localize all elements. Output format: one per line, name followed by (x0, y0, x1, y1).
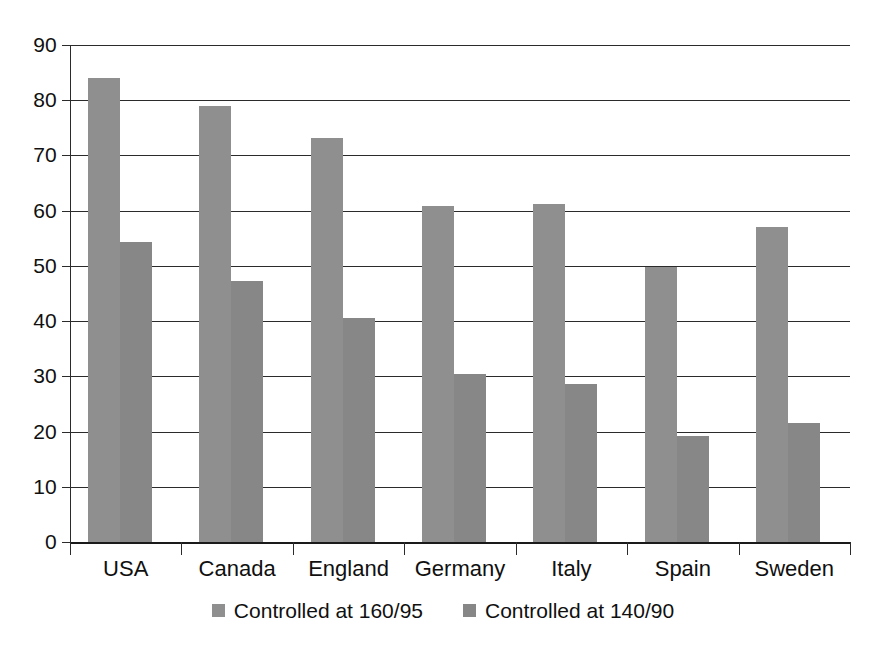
y-axis-tick-label: 70 (33, 144, 57, 165)
x-axis-tick-label: Canada (181, 556, 292, 582)
bar-group (199, 45, 263, 542)
bar[interactable] (120, 242, 152, 542)
y-axis-tick-label: 80 (33, 89, 57, 110)
bar-group (88, 45, 152, 542)
bar-group (645, 45, 709, 542)
x-axis-tick (850, 542, 851, 555)
y-axis-tick-label: 40 (33, 310, 57, 331)
bar-chart: 0102030405060708090 USACanadaEnglandGerm… (0, 0, 886, 647)
bar[interactable] (533, 204, 565, 542)
x-axis-line (70, 542, 850, 544)
bars-layer (70, 45, 850, 542)
bar-group (533, 45, 597, 542)
legend-item-series-1[interactable]: Controlled at 160/95 (212, 600, 423, 621)
legend: Controlled at 160/95 Controlled at 140/9… (0, 600, 886, 621)
legend-item-series-2[interactable]: Controlled at 140/90 (463, 600, 674, 621)
legend-label-series-2: Controlled at 140/90 (485, 600, 674, 621)
x-axis-tick-label: USA (70, 556, 181, 582)
x-axis-tick (293, 542, 294, 555)
bar[interactable] (422, 206, 454, 542)
x-axis-tick (739, 542, 740, 555)
bar[interactable] (756, 227, 788, 542)
y-axis-tick-label: 50 (33, 255, 57, 276)
y-axis-tick-label: 30 (33, 365, 57, 386)
x-axis-tick (404, 542, 405, 555)
x-axis-tick (516, 542, 517, 555)
bar-group (311, 45, 375, 542)
x-axis-tick (70, 542, 71, 555)
y-axis-tick-label: 0 (45, 531, 57, 552)
x-axis-tick-label: Spain (627, 556, 738, 582)
x-axis-tick (627, 542, 628, 555)
x-axis-tick (181, 542, 182, 555)
y-axis-labels: 0102030405060708090 (0, 0, 57, 647)
bar[interactable] (231, 281, 263, 542)
bar-group (756, 45, 820, 542)
x-axis-tick-label: Italy (516, 556, 627, 582)
bar[interactable] (565, 384, 597, 542)
bar[interactable] (199, 106, 231, 542)
bar-group (422, 45, 486, 542)
legend-swatch-icon (463, 604, 476, 617)
legend-label-series-1: Controlled at 160/95 (234, 600, 423, 621)
y-axis-tick-label: 20 (33, 421, 57, 442)
bar[interactable] (88, 78, 120, 542)
bar[interactable] (677, 436, 709, 542)
legend-swatch-icon (212, 604, 225, 617)
bar[interactable] (311, 138, 343, 542)
y-axis-tick-label: 10 (33, 476, 57, 497)
bar[interactable] (454, 374, 486, 542)
bar[interactable] (343, 318, 375, 542)
bar[interactable] (645, 267, 677, 542)
x-axis-tick-label: Germany (404, 556, 515, 582)
y-axis-tick-label: 60 (33, 200, 57, 221)
x-axis-tick-label: Sweden (739, 556, 850, 582)
y-axis-tick-label: 90 (33, 34, 57, 55)
x-axis-tick-label: England (293, 556, 404, 582)
bar[interactable] (788, 423, 820, 542)
